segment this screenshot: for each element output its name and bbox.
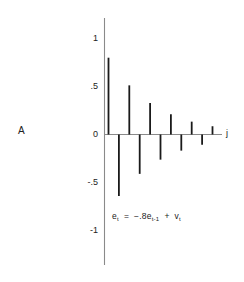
autocorrelation-plot <box>0 0 244 282</box>
equation-rhs-var: e <box>147 211 152 221</box>
panel-label: A <box>18 125 25 136</box>
y-tick-label-neg1: -1 <box>72 225 98 235</box>
equation-equals: = <box>124 211 129 221</box>
y-tick-label-0point5: .5 <box>72 81 98 91</box>
equation-lhs-sub: t <box>117 216 119 222</box>
equation-annotation: et = −.8et-1 + vt <box>112 211 181 221</box>
equation-plus: + <box>164 211 169 221</box>
y-tick-label-1: 1 <box>72 33 98 43</box>
figure-panel-a: A 1 .5 0 -.5 -1 j et = −.8et-1 + vt <box>0 0 244 282</box>
bars-group <box>109 58 213 196</box>
y-tick-label-neg0point5: -.5 <box>72 177 98 187</box>
y-tick-label-0: 0 <box>72 129 98 139</box>
equation-rhs-sub: t-1 <box>152 216 160 222</box>
equation-coefficient: −.8 <box>134 211 147 221</box>
equation-noise-sub: t <box>179 216 181 222</box>
axes-group <box>105 18 223 265</box>
x-axis-label-j: j <box>226 128 228 138</box>
